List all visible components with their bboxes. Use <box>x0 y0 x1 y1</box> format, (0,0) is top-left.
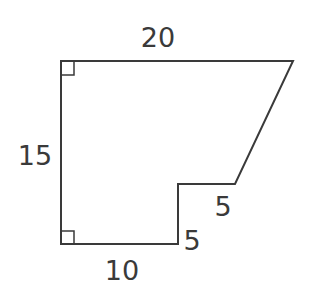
diagram-canvas: 20 15 10 5 5 <box>0 0 313 299</box>
right-angle-marker-top-left <box>61 61 74 75</box>
label-step-vertical: 5 <box>183 225 200 256</box>
right-angle-marker-bottom-left <box>61 231 74 244</box>
label-top: 20 <box>141 22 175 53</box>
shape-outline <box>61 61 293 244</box>
label-step-horizontal: 5 <box>214 191 231 222</box>
label-bottom: 10 <box>105 255 139 286</box>
label-left: 15 <box>18 140 52 171</box>
